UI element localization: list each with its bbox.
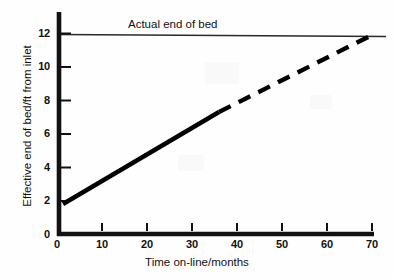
x-axis-title: Time on-line/months: [0, 256, 394, 268]
actual-end-of-bed-annotation: Actual end of bed: [128, 18, 218, 30]
x-tick-label-0: 0: [45, 238, 69, 250]
effective-bed-extrapolated-line: [219, 36, 370, 112]
x-tick-label-70: 70: [360, 238, 384, 250]
x-tick-label-10: 10: [90, 238, 114, 250]
x-tick-label-30: 30: [180, 238, 204, 250]
x-tick-marks: [102, 223, 372, 231]
x-tick-label-50: 50: [270, 238, 294, 250]
x-tick-label-60: 60: [315, 238, 339, 250]
chart-figure: 12 10 8 6 4 2 0 0 10 20 30 40 50 60 70 T…: [0, 0, 394, 279]
effective-bed-measured-line: [63, 112, 219, 204]
actual-end-of-bed-line: [57, 35, 386, 37]
x-tick-label-20: 20: [135, 238, 159, 250]
y-axis-title: Effective end of bed/ft from inlet: [21, 11, 33, 241]
x-tick-label-40: 40: [225, 238, 249, 250]
y-tick-marks: [61, 34, 71, 202]
